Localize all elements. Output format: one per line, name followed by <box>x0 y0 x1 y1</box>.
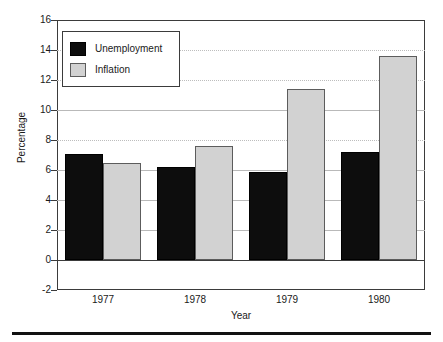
bar-inflation-1980 <box>379 56 417 260</box>
y-tick-mark <box>51 230 57 231</box>
y-tick-14: 14 <box>18 45 51 55</box>
bottom-rule <box>12 332 431 335</box>
y-tick-mark <box>51 20 57 21</box>
y-tick-4: 4 <box>18 195 51 205</box>
bar-inflation-1977 <box>103 163 141 261</box>
y-axis-title: Percentage <box>16 83 27 193</box>
y-tick-mark <box>51 110 57 111</box>
y-tick-mark <box>51 200 57 201</box>
y-tick-0: 0 <box>18 255 51 265</box>
y-tick-mark <box>51 80 57 81</box>
y-tick-label: 2 <box>21 225 51 235</box>
x-tick-label-1978: 1978 <box>165 294 225 306</box>
y-tick-mark <box>51 260 57 261</box>
gridline-0 <box>57 260 425 261</box>
x-tick-label-1980: 1980 <box>349 294 409 306</box>
y-tick-label: 14 <box>21 45 51 55</box>
y-tick-2: 2 <box>18 225 51 235</box>
y-tick-label: 4 <box>21 195 51 205</box>
y-tick-16: 16 <box>18 15 51 25</box>
legend-label-inflation: Inflation <box>95 64 130 75</box>
y-tick-label: -2 <box>21 285 51 295</box>
bar-inflation-1978 <box>195 146 233 260</box>
gridline-8 <box>57 140 425 141</box>
bar-unemployment-1978 <box>157 167 195 260</box>
legend-swatch-unemployment <box>70 42 86 56</box>
y-tick--2: -2 <box>18 285 51 295</box>
y-tick-mark <box>51 170 57 171</box>
bar-unemployment-1977 <box>65 154 103 261</box>
bar-unemployment-1979 <box>249 172 287 261</box>
x-tick-label-1977: 1977 <box>73 294 133 306</box>
legend-swatch-inflation <box>70 63 86 77</box>
legend-item-unemployment: Unemployment <box>70 38 172 59</box>
x-tick-label-1979: 1979 <box>257 294 317 306</box>
y-tick-mark <box>51 50 57 51</box>
legend-label-unemployment: Unemployment <box>95 43 162 54</box>
bar-inflation-1979 <box>287 89 325 260</box>
chart-legend: Unemployment Inflation <box>62 31 180 87</box>
y-tick-label: 16 <box>21 15 51 25</box>
gridline-10 <box>57 110 425 111</box>
y-tick-label: 0 <box>21 255 51 265</box>
bar-unemployment-1980 <box>341 152 379 260</box>
x-axis-title: Year <box>57 310 425 321</box>
y-tick-mark <box>51 290 57 291</box>
bar-chart-figure: 1614121086420-2 1977197819791980 Percent… <box>0 0 443 342</box>
y-tick-mark <box>51 140 57 141</box>
legend-item-inflation: Inflation <box>70 59 172 80</box>
